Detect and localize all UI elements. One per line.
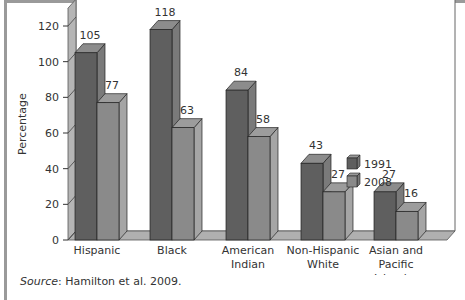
value-label: 27 bbox=[331, 168, 345, 181]
value-label: 43 bbox=[309, 139, 323, 152]
value-label: 16 bbox=[404, 187, 418, 200]
y-tick-label: 0 bbox=[52, 234, 59, 247]
x-tick-label: Islander bbox=[374, 272, 418, 275]
x-tick-label: American bbox=[222, 244, 274, 257]
source-note: Source: Hamilton et al. 2009. bbox=[20, 275, 181, 288]
bar-2008: 63 bbox=[172, 104, 202, 240]
legend-label: 1991 bbox=[364, 158, 392, 171]
y-tick-label: 100 bbox=[38, 56, 59, 69]
y-tick-label: 80 bbox=[45, 91, 59, 104]
x-tick-label: Non-Hispanic bbox=[287, 244, 360, 257]
x-tick-label: White bbox=[307, 258, 339, 271]
legend-label: 2008 bbox=[364, 176, 392, 189]
y-axis-label: Percentage bbox=[16, 93, 29, 155]
value-label: 58 bbox=[256, 113, 270, 126]
bar-2008: 77 bbox=[97, 79, 127, 240]
y-tick-label: 120 bbox=[38, 20, 59, 33]
x-tick-label: Hispanic bbox=[74, 244, 121, 257]
x-tick-label: Black bbox=[157, 244, 187, 257]
source-text: : Hamilton et al. 2009. bbox=[58, 275, 181, 288]
source-label: Source bbox=[20, 275, 58, 288]
bar-2008: 58 bbox=[248, 113, 278, 240]
value-label: 77 bbox=[105, 79, 119, 92]
y-tick-label: 40 bbox=[45, 163, 59, 176]
bar-chart: 020406080100120Percentage10577Hispanic11… bbox=[0, 0, 465, 275]
value-label: 63 bbox=[180, 104, 194, 117]
value-label: 84 bbox=[234, 66, 248, 79]
legend-swatch-2008 bbox=[347, 176, 357, 187]
x-tick-label: Asian and bbox=[369, 244, 423, 257]
value-label: 118 bbox=[155, 6, 176, 19]
value-label: 105 bbox=[80, 29, 101, 42]
x-tick-label: Indian bbox=[231, 258, 265, 271]
x-tick-label: Pacific bbox=[379, 258, 414, 271]
legend-swatch-1991 bbox=[347, 158, 357, 169]
y-tick-label: 20 bbox=[45, 198, 59, 211]
y-tick-label: 60 bbox=[45, 127, 59, 140]
